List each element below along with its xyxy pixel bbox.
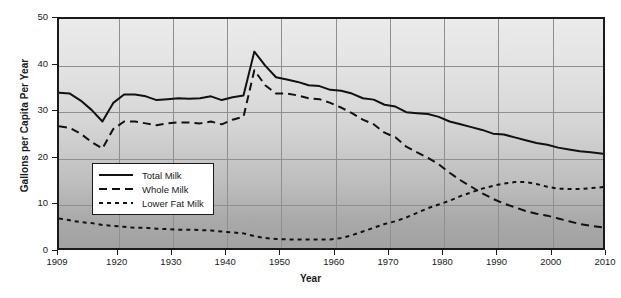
- milk-consumption-chart: Gallons per Capita Per Year 01020304050 …: [0, 0, 621, 298]
- x-tick-mark: [334, 250, 335, 255]
- y-axis-title: Gallons per Capita Per Year: [19, 6, 30, 246]
- x-axis-title: Year: [0, 273, 621, 284]
- y-tick-label: 0: [8, 244, 48, 255]
- plot-area: [57, 17, 605, 250]
- x-tick-mark: [496, 250, 497, 255]
- legend-item: Whole Milk: [99, 182, 204, 196]
- y-tick-label: 10: [8, 197, 48, 208]
- x-tick-label: 1950: [256, 256, 302, 267]
- x-tick-label: 1930: [148, 256, 194, 267]
- x-tick-mark: [279, 250, 280, 255]
- x-tick-label: 1920: [94, 256, 140, 267]
- x-tick-mark: [57, 250, 58, 255]
- y-tick-label: 30: [8, 104, 48, 115]
- y-tick-label: 50: [8, 11, 48, 22]
- x-tick-label: 1970: [365, 256, 411, 267]
- x-tick-mark: [442, 250, 443, 255]
- x-tick-label: 1980: [419, 256, 465, 267]
- legend-item-label: Total Milk: [142, 170, 182, 181]
- x-tick-label: 1940: [202, 256, 248, 267]
- y-tick-label: 20: [8, 151, 48, 162]
- y-tick-label: 40: [8, 58, 48, 69]
- legend-line-sample-icon: [99, 170, 133, 180]
- x-tick-mark: [605, 250, 606, 255]
- x-tick-label: 2000: [528, 256, 574, 267]
- legend-item-label: Whole Milk: [142, 184, 188, 195]
- x-tick-mark: [551, 250, 552, 255]
- legend-line-sample-icon: [99, 198, 133, 208]
- x-tick-label: 2010: [582, 256, 621, 267]
- x-tick-label: 1909: [34, 256, 80, 267]
- legend-line-sample-icon: [99, 184, 133, 194]
- x-tick-label: 1990: [473, 256, 519, 267]
- legend-item: Total Milk: [99, 168, 204, 182]
- x-tick-mark: [388, 250, 389, 255]
- x-tick-mark: [225, 250, 226, 255]
- x-tick-mark: [117, 250, 118, 255]
- x-tick-mark: [171, 250, 172, 255]
- legend: Total MilkWhole MilkLower Fat Milk: [92, 163, 214, 215]
- x-tick-label: 1960: [311, 256, 357, 267]
- legend-item: Lower Fat Milk: [99, 196, 204, 210]
- legend-item-label: Lower Fat Milk: [142, 198, 204, 209]
- series-lines: [59, 19, 605, 250]
